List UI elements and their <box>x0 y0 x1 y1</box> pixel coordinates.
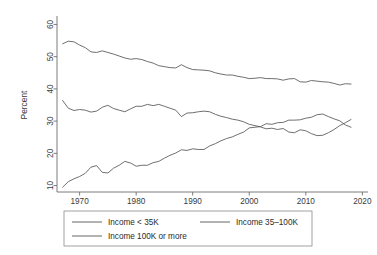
series-lines <box>63 41 351 187</box>
y-axis: 102030405060Percent <box>19 16 57 192</box>
x-tick-label: 1970 <box>71 197 90 206</box>
legend-label-2: Income 100K or more <box>108 232 187 241</box>
x-tick-label: 1990 <box>184 197 203 206</box>
legend-box <box>64 211 312 246</box>
chart-legend: Income < 35KIncome 35–100KIncome 100K or… <box>64 211 312 246</box>
series-line-2 <box>63 114 351 187</box>
y-axis-title: Percent <box>19 90 29 120</box>
x-tick-label: 2020 <box>353 197 372 206</box>
chart-figure: 102030405060Percent 19701980199020002010… <box>0 0 377 255</box>
x-tick-label: 1980 <box>127 197 146 206</box>
y-tick-label: 40 <box>47 84 56 94</box>
y-tick-label: 10 <box>47 181 56 191</box>
series-line-0 <box>63 41 351 85</box>
y-tick-label: 20 <box>47 148 56 158</box>
x-axis: 197019801990200020102020 <box>57 192 372 206</box>
x-tick-label: 2010 <box>297 197 316 206</box>
legend-label-1: Income 35–100K <box>236 218 298 227</box>
line-chart-canvas: 102030405060Percent 19701980199020002010… <box>0 0 377 255</box>
y-tick-label: 30 <box>47 116 56 126</box>
y-tick-label: 50 <box>47 52 56 62</box>
y-tick-label: 60 <box>47 19 56 29</box>
legend-label-0: Income < 35K <box>108 218 159 227</box>
x-tick-label: 2000 <box>240 197 259 206</box>
